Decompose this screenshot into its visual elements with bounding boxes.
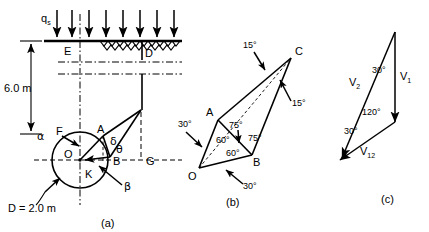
soil-hatching [100, 41, 180, 50]
angle-arrow-b-15-top [254, 52, 265, 70]
point-label-G: G [146, 155, 155, 167]
vector-v2 [342, 32, 395, 158]
point-label-O: O [64, 148, 73, 160]
angle-label-b-75-right: 75° [248, 133, 262, 143]
panel-b-caption: (b) [226, 196, 239, 208]
surcharge-label: qs [41, 12, 51, 26]
depth-dimension-label: 6.0 m [4, 82, 32, 94]
surcharge-arrows [57, 10, 174, 37]
angle-label-b-15-top: 15° [243, 40, 257, 50]
angle-label-b-60-lower: 60° [226, 148, 240, 158]
angle-label-c-30-base: 30° [344, 126, 358, 136]
angle-label-alpha: α [37, 130, 44, 143]
panel-a-caption: (a) [101, 217, 114, 229]
point-label-D: D [145, 47, 153, 59]
angle-arrow-b-15-right [280, 80, 291, 101]
wedge-line-AC [103, 110, 141, 136]
angle-label-beta: β [124, 180, 131, 193]
point-marker-O [78, 158, 81, 161]
alpha-arrow [62, 136, 79, 146]
angle-label-b-30-bottom: 30° [243, 181, 257, 191]
point-label-A: A [97, 123, 105, 135]
panel-c-caption: (c) [381, 193, 394, 205]
wedge-line-CB [110, 110, 141, 157]
point-label-b-A: A [206, 106, 214, 118]
vector-label-v2: V2 [349, 76, 360, 90]
point-label-B: B [113, 155, 120, 167]
panel-c: V1 V2 V12 30° 120° 30° (c) [340, 32, 411, 205]
angle-label-c-30-apex: 30° [372, 65, 386, 75]
point-label-b-B: B [253, 156, 260, 168]
vector-label-v1: V1 [400, 70, 411, 84]
diameter-label: D = 2.0 m [8, 202, 56, 214]
engineering-figure: qs E D 6.0 m [0, 0, 429, 232]
angle-label-b-60-left: 60° [216, 135, 230, 145]
point-label-b-C: C [295, 45, 303, 57]
angle-arrow-b-30-bottom [226, 170, 243, 184]
point-label-K: K [85, 168, 93, 180]
point-label-b-O: O [188, 170, 197, 182]
point-label-F: F [56, 125, 63, 137]
angle-arrow-b-30-left [186, 132, 202, 147]
angle-label-c-120: 120° [362, 107, 381, 117]
vector-label-v12: V12 [360, 145, 375, 159]
block-line-AC [218, 58, 291, 120]
angle-arrow-b-75-upper [238, 130, 239, 143]
point-label-E: E [64, 45, 71, 57]
angle-label-b-30-left: 30° [178, 119, 192, 129]
angle-label-b-75-upper: 75° [229, 120, 243, 130]
angle-label-b-15-right: 15° [292, 98, 306, 108]
panel-a: qs E D 6.0 m [4, 10, 182, 229]
panel-b: A C O B 15° 15° 30° 30° 75° 75° 60° 60° … [178, 40, 306, 208]
diameter-leader-arrow [45, 178, 60, 192]
